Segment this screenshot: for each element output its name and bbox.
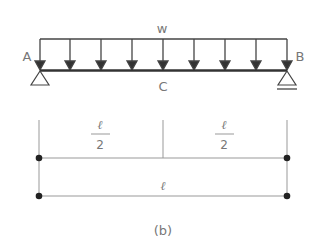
beam-diagram: w A B C ℓ 2 ℓ 2 ℓ (b) xyxy=(0,0,321,252)
svg-text:ℓ: ℓ xyxy=(222,118,227,132)
roller-support-icon xyxy=(277,71,297,89)
support-a-label: A xyxy=(23,49,32,64)
midpoint-c-label: C xyxy=(158,79,167,94)
full-span-label: ℓ xyxy=(161,179,166,193)
half-span-right: ℓ 2 xyxy=(215,118,234,152)
caption: (b) xyxy=(154,223,172,238)
load-arrows xyxy=(35,39,292,70)
svg-text:2: 2 xyxy=(96,138,104,152)
half-span-left: ℓ 2 xyxy=(91,118,110,152)
svg-text:2: 2 xyxy=(220,138,228,152)
svg-text:ℓ: ℓ xyxy=(98,118,103,132)
support-b-label: B xyxy=(296,49,305,64)
pin-support-icon xyxy=(31,71,49,85)
load-label: w xyxy=(157,21,168,36)
